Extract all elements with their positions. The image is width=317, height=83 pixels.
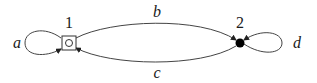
node-1 (62, 36, 76, 50)
node-1-label: 1 (65, 14, 73, 31)
diagram-svg: 1 2 a b c d (0, 0, 317, 83)
edge-a-self-loop (25, 31, 61, 55)
node-2 (236, 39, 245, 48)
edge-d-label: d (293, 34, 302, 51)
state-diagram: 1 2 a b c d (0, 0, 317, 83)
edge-c-2-to-1 (76, 46, 236, 62)
edge-d-self-loop (244, 33, 282, 52)
edge-c-label: c (153, 64, 160, 81)
edge-b-1-to-2 (76, 23, 236, 40)
node-2-label: 2 (236, 14, 244, 31)
edge-a-label: a (13, 34, 21, 51)
edge-b-label: b (153, 3, 161, 20)
